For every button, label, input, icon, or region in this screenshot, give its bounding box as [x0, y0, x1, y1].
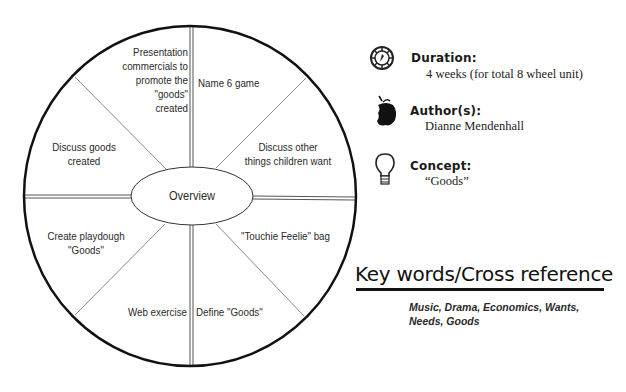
- center-label: Overview: [140, 188, 244, 203]
- duration-title: Duration:: [411, 51, 477, 65]
- segment-label-right-lower: "Touchie Feelie" bag: [241, 229, 330, 243]
- segment-label-right-upper: Discuss other things children want: [246, 140, 331, 168]
- segment-label-top-left: Presentation commercials to promote the …: [122, 45, 188, 115]
- apple-icon: [373, 95, 399, 129]
- keywords-text: Music, Drama, Economics, Wants, Needs, G…: [409, 300, 609, 328]
- segment-label-bottom-right: Define "Goods": [196, 305, 263, 319]
- concept-value: “Goods”: [425, 174, 469, 189]
- authors-title: Author(s):: [410, 104, 481, 118]
- segment-label-left-lower: Create playdough "Goods": [44, 229, 129, 257]
- segment-label-left-upper: Discuss goods created: [43, 140, 125, 168]
- concept-title: Concept:: [410, 159, 472, 173]
- segment-label-bottom-left: Web exercise: [122, 305, 187, 319]
- authors-value: Dianne Mendenhall: [425, 119, 524, 134]
- lightbulb-icon: [374, 152, 396, 186]
- segment-label-top-right: Name 6 game: [198, 76, 259, 90]
- keywords-underline: [356, 288, 604, 291]
- wheel-compass-icon: [369, 45, 395, 71]
- duration-value: 4 weeks (for total 8 wheel unit): [426, 67, 583, 82]
- keywords-heading: Key words/Cross reference: [355, 262, 613, 286]
